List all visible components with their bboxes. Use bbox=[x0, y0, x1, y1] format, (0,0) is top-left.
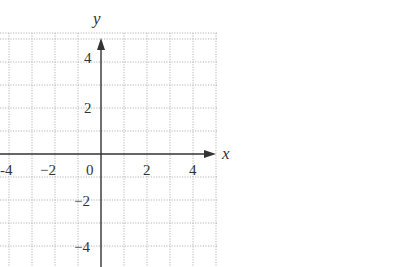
x-tick-label: −2 bbox=[40, 162, 56, 178]
grid bbox=[0, 33, 217, 267]
y-axis-arrow-icon bbox=[97, 38, 105, 50]
x-axis-label: x bbox=[221, 144, 230, 163]
origin-label: 0 bbox=[86, 162, 94, 178]
x-tick-label: 4 bbox=[189, 162, 197, 178]
coordinate-plane: x y -4 −2 0 2 4 4 2 −2 −4 bbox=[0, 0, 404, 267]
y-tick-label: 4 bbox=[84, 50, 92, 66]
x-tick-label: 2 bbox=[143, 162, 151, 178]
x-axis-arrow-icon bbox=[204, 150, 216, 158]
y-tick-label: −4 bbox=[74, 239, 90, 255]
y-axis-label: y bbox=[91, 9, 101, 28]
y-tick-label: 2 bbox=[84, 100, 92, 116]
y-tick-label: −2 bbox=[74, 193, 90, 209]
x-tick-label: -4 bbox=[0, 162, 13, 178]
y-axis bbox=[97, 38, 105, 267]
